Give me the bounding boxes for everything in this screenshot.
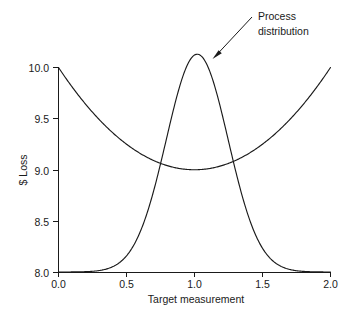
chart-background: [0, 0, 356, 316]
annotation-line-2: distribution: [258, 25, 309, 37]
x-axis-title: Target measurement: [148, 293, 244, 305]
y-tick-label-9.0: 9.0: [34, 165, 49, 177]
loss-function-chart: 10.0 9.5 9.0 8.5 8.0 0.0 0.5 1.0 1.5 2.0…: [0, 0, 356, 316]
chart-figure: 10.0 9.5 9.0 8.5 8.0 0.0 0.5 1.0 1.5 2.0…: [0, 0, 356, 316]
y-tick-label-10.0: 10.0: [29, 62, 50, 74]
y-tick-label-9.5: 9.5: [34, 113, 49, 125]
y-tick-label-8.5: 8.5: [34, 216, 49, 228]
y-axis-title: $ Loss: [17, 155, 29, 186]
annotation-line-1: Process: [258, 10, 296, 22]
y-tick-label-8.0: 8.0: [34, 267, 49, 279]
x-tick-label-1.5: 1.5: [255, 278, 270, 290]
x-tick-label-1.0: 1.0: [187, 278, 202, 290]
x-tick-label-0.0: 0.0: [51, 278, 66, 290]
x-tick-label-2.0: 2.0: [323, 278, 338, 290]
x-tick-label-0.5: 0.5: [119, 278, 134, 290]
